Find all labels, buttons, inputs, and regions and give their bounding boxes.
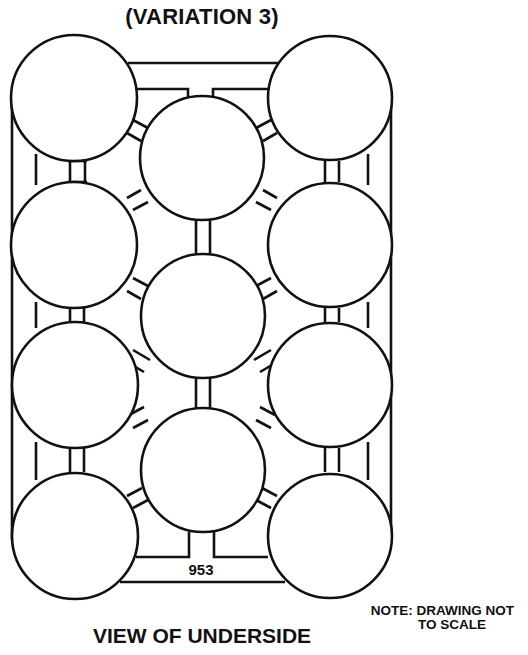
part-number-label: 953: [188, 561, 213, 578]
circle-left-4: [12, 473, 138, 599]
circle-left-2: [11, 182, 137, 308]
circle-left-3: [12, 322, 138, 448]
circle-right-2: [268, 183, 392, 307]
circle-left-1: [11, 35, 137, 161]
circle-right-3: [268, 323, 392, 447]
note-line-1: NOTE: DRAWING NOT: [352, 604, 514, 618]
underside-drawing: 953: [0, 0, 528, 655]
circle-middle-1: [140, 96, 264, 220]
circle-middle-3: [141, 408, 265, 532]
circle-middle-2: [141, 254, 265, 378]
circle-right-4: [268, 474, 392, 598]
view-caption: VIEW OF UNDERSIDE: [0, 624, 404, 648]
circle-right-1: [268, 36, 392, 160]
